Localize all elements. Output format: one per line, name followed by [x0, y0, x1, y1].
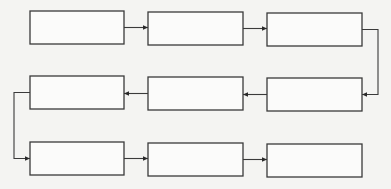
node-box: [148, 12, 243, 45]
node-box: [267, 13, 362, 46]
connector-n3-n4: [362, 30, 378, 97]
flow-node-8: [148, 143, 243, 176]
node-box: [30, 142, 124, 175]
connector-n6-n7: [14, 93, 30, 161]
node-box: [267, 144, 362, 177]
flow-node-9: [267, 144, 362, 177]
connector-n4-n5: [243, 92, 267, 96]
connector-n7-n8: [124, 156, 148, 160]
flow-node-3: [267, 13, 362, 46]
flow-node-2: [148, 12, 243, 45]
arrow-right-icon: [143, 25, 148, 29]
flow-node-4: [267, 78, 362, 111]
node-box: [267, 78, 362, 111]
node-layer: [30, 11, 362, 177]
flow-node-7: [30, 142, 124, 175]
arrow-right-icon: [262, 26, 267, 30]
arrow-right-icon: [25, 156, 30, 160]
flow-node-6: [30, 76, 124, 109]
connector-line: [14, 93, 30, 159]
flow-node-1: [30, 11, 124, 44]
arrow-right-icon: [143, 156, 148, 160]
arrow-right-icon: [262, 157, 267, 161]
node-box: [30, 11, 124, 44]
flow-node-5: [148, 77, 243, 110]
connector-n2-n3: [243, 26, 267, 30]
connector-line: [362, 30, 378, 95]
flowchart-canvas: [0, 0, 391, 189]
node-box: [30, 76, 124, 109]
connector-n5-n6: [124, 91, 148, 95]
node-box: [148, 77, 243, 110]
arrow-left-icon: [362, 92, 367, 96]
connector-n8-n9: [243, 157, 267, 161]
node-box: [148, 143, 243, 176]
connector-n1-n2: [124, 25, 148, 29]
arrow-left-icon: [243, 92, 248, 96]
arrow-left-icon: [124, 91, 129, 95]
